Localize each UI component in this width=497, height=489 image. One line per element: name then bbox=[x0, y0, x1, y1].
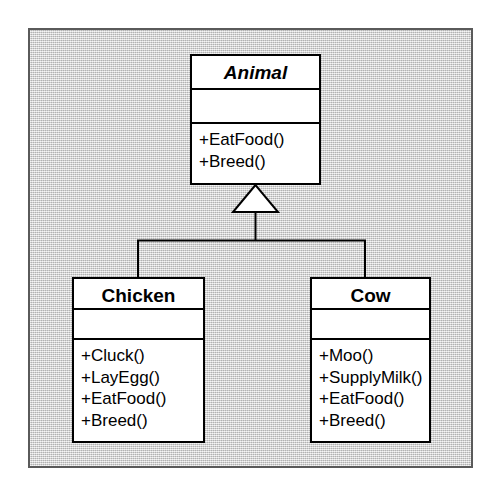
operation-item: +Breed() bbox=[312, 410, 429, 432]
operation-item: +EatFood() bbox=[192, 129, 319, 151]
class-attributes-chicken bbox=[74, 310, 203, 340]
operation-item: +LayEgg() bbox=[74, 367, 203, 389]
class-box-animal[interactable]: Animal +EatFood() +Breed() bbox=[190, 54, 321, 185]
operation-item: +Breed() bbox=[192, 151, 319, 173]
operation-item: +EatFood() bbox=[312, 388, 429, 410]
diagram-canvas: Animal +EatFood() +Breed() Chicken +Cluc… bbox=[0, 0, 497, 489]
class-attributes-animal bbox=[192, 90, 319, 124]
class-attributes-cow bbox=[312, 310, 429, 340]
operation-item: +SupplyMilk() bbox=[312, 367, 429, 389]
class-operations-cow: +Moo() +SupplyMilk() +EatFood() +Breed() bbox=[312, 340, 429, 441]
operation-item: +Moo() bbox=[312, 345, 429, 367]
class-name-chicken: Chicken bbox=[74, 279, 203, 310]
class-operations-chicken: +Cluck() +LayEgg() +EatFood() +Breed() bbox=[74, 340, 203, 441]
class-operations-animal: +EatFood() +Breed() bbox=[192, 124, 319, 183]
class-box-cow[interactable]: Cow +Moo() +SupplyMilk() +EatFood() +Bre… bbox=[310, 277, 431, 443]
operation-item: +Cluck() bbox=[74, 345, 203, 367]
class-box-chicken[interactable]: Chicken +Cluck() +LayEgg() +EatFood() +B… bbox=[72, 277, 205, 443]
operation-item: +Breed() bbox=[74, 410, 203, 432]
operation-item: +EatFood() bbox=[74, 388, 203, 410]
class-name-animal: Animal bbox=[192, 56, 319, 90]
class-name-cow: Cow bbox=[312, 279, 429, 310]
